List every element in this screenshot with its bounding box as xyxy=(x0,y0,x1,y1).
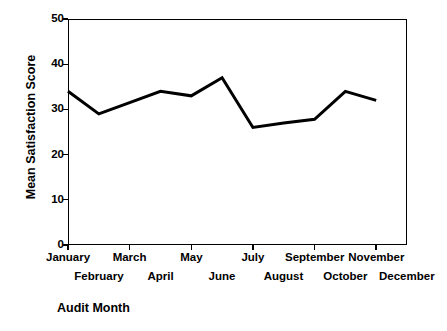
x-axis-tick-label: September xyxy=(285,252,344,264)
x-axis-tick-label: July xyxy=(241,252,264,264)
y-axis-title: Mean Satisfaction Score xyxy=(24,32,38,222)
x-axis-tick-label: January xyxy=(46,252,90,264)
x-axis-tick-label: February xyxy=(74,271,123,283)
y-axis-tick-label: 20 xyxy=(38,149,64,161)
x-axis-tick-mark xyxy=(67,245,68,250)
x-axis-tick-mark xyxy=(314,245,315,250)
y-axis-tick-label: 30 xyxy=(38,103,64,115)
line-chart-figure: Mean Satisfaction Score 50403020100 Janu… xyxy=(0,0,447,331)
x-axis-tick-mark xyxy=(129,245,130,250)
x-axis-tick-label: May xyxy=(180,252,202,264)
x-axis-tick-label: April xyxy=(147,271,173,283)
plot-area xyxy=(68,19,407,245)
x-axis-tick-mark xyxy=(375,245,376,250)
data-series-line xyxy=(68,19,407,245)
x-axis-tick-label: October xyxy=(323,271,367,283)
x-axis-tick-label: August xyxy=(264,271,304,283)
x-axis-tick-mark xyxy=(191,245,192,250)
x-axis-tick-label: November xyxy=(348,252,404,264)
y-axis-tick-label: 40 xyxy=(38,58,64,70)
x-axis-tick-mark xyxy=(252,245,253,250)
x-axis-title: Audit Month xyxy=(57,301,130,315)
x-axis-tick-label: December xyxy=(379,271,435,283)
y-axis-tick-label-group: 50403020100 xyxy=(38,0,64,331)
y-axis-tick-label: 10 xyxy=(38,194,64,206)
y-axis-tick-label: 50 xyxy=(38,13,64,25)
x-axis-tick-label: March xyxy=(113,252,147,264)
x-axis-tick-label: June xyxy=(209,271,236,283)
y-axis-tick-label: 0 xyxy=(38,239,64,251)
